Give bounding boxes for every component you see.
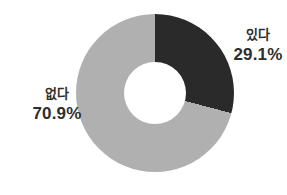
donut-hole bbox=[124, 62, 186, 124]
slice-label-yes-name: 있다 bbox=[226, 26, 287, 44]
slice-label-yes-percent: 29.1% bbox=[226, 44, 287, 67]
slice-label-no-name: 없다 bbox=[20, 85, 94, 103]
donut-ring bbox=[76, 14, 234, 172]
donut-chart: 있다 29.1% 없다 70.9% bbox=[0, 0, 287, 195]
slice-label-no-percent: 70.9% bbox=[20, 103, 94, 126]
slice-label-yes: 있다 29.1% bbox=[226, 26, 287, 66]
slice-label-no: 없다 70.9% bbox=[20, 85, 94, 125]
